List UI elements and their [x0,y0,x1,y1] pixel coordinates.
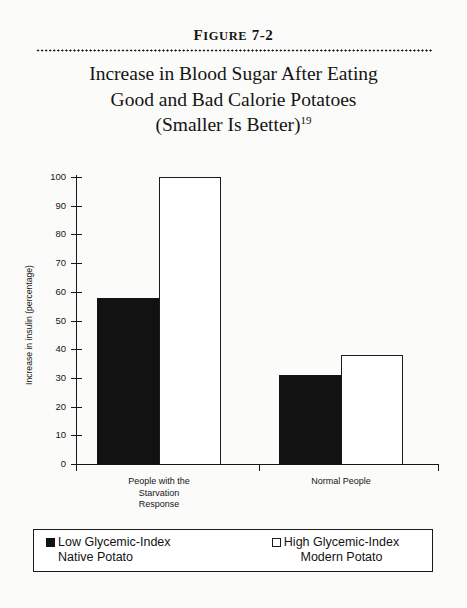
y-tick-mark [71,292,82,293]
x-tick-mark [438,464,439,471]
y-tick-mark [71,378,82,379]
bar [97,298,159,464]
x-tick-mark [259,464,260,471]
y-tick-label-wrap: 20 [40,407,66,408]
y-tick-mark [71,435,82,436]
y-tick-label: 80 [40,229,66,239]
title-footnote-marker: 19 [301,114,312,126]
title-line-2: Good and Bad Calorie Potatoes [0,87,467,113]
bar [279,375,341,464]
x-category-line: Response [139,499,180,509]
figure-title: Increase in Blood Sugar After Eating Goo… [0,61,467,138]
y-tick-mark [71,177,82,178]
legend-high-line1: High Glycemic-Index [284,535,399,549]
legend-high-line2: Modern Potato [300,550,382,564]
legend-label-high-glycemic: High Glycemic-Index Modern Potato [284,535,399,571]
legend-entry-high-glycemic: High Glycemic-Index Modern Potato [239,530,432,571]
y-tick-mark [71,349,82,350]
y-tick-label-wrap: 30 [40,378,66,379]
y-tick-mark [71,407,82,408]
figure-label-cap: F [194,27,204,43]
y-tick-label: 40 [40,344,66,354]
y-tick-mark [71,263,82,264]
y-tick-mark [71,321,82,322]
y-tick-label-wrap: 70 [40,263,66,264]
x-category-label: People with theStarvationResponse [89,476,229,511]
y-tick-label: 10 [40,430,66,440]
y-tick-label: 20 [40,402,66,412]
x-category-label: Normal People [271,476,411,488]
legend-label-low-glycemic: Low Glycemic-Index Native Potato [58,535,171,571]
y-tick-label-wrap: 60 [40,292,66,293]
title-line-3-text: (Smaller Is Better) [155,114,300,135]
y-tick-label: 70 [40,258,66,268]
chart-legend: Low Glycemic-Index Native Potato High Gl… [33,529,433,572]
bar [341,355,403,464]
filled-square-icon [46,538,55,547]
legend-low-line2: Native Potato [58,550,133,564]
x-category-line: People with the [128,476,190,486]
figure-label-rest: IGURE [203,29,247,43]
figure-label: FIGURE 7-2 [194,27,274,44]
title-line-1: Increase in Blood Sugar After Eating [0,61,467,87]
y-tick-label: 90 [40,201,66,211]
y-tick-label-wrap: 10 [40,435,66,436]
x-tick-mark [76,464,77,471]
y-tick-label-wrap: 40 [40,349,66,350]
y-tick-mark [71,206,82,207]
title-line-3: (Smaller Is Better)19 [0,112,467,138]
x-axis-line [76,464,438,465]
y-tick-label: 30 [40,373,66,383]
y-tick-label-wrap: 50 [40,321,66,322]
y-tick-label: 50 [40,316,66,326]
y-tick-label: 60 [40,287,66,297]
x-category-line: Normal People [311,476,371,486]
y-tick-label-wrap: 100 [40,177,66,178]
y-tick-label: 100 [40,172,66,182]
figure-header: FIGURE 7-2 [0,26,467,44]
y-axis-title: Increase in insulin (percentage) [24,210,34,440]
bar [159,177,221,464]
y-tick-label: 0 [40,459,66,469]
y-tick-label-wrap: 90 [40,206,66,207]
x-category-line: Starvation [139,488,180,498]
figure-label-number: 7-2 [252,27,274,43]
bar-chart: Increase in insulin (percentage) 0102030… [0,168,467,488]
y-tick-mark [71,234,82,235]
legend-entry-low-glycemic: Low Glycemic-Index Native Potato [34,530,239,571]
y-tick-label-wrap: 80 [40,234,66,235]
open-square-icon [272,538,281,547]
legend-low-line1: Low Glycemic-Index [58,535,171,549]
y-tick-label-wrap: 0 [40,464,66,465]
dotted-rule-divider [36,49,432,52]
